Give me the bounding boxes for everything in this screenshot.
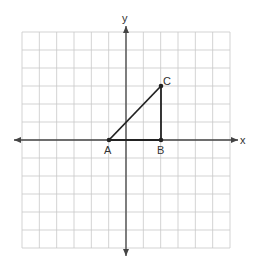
segment-ac (109, 86, 161, 140)
y-axis-up-arrow-icon (123, 26, 129, 33)
point-a-label: A (104, 144, 112, 156)
point-b-label: B (157, 144, 164, 156)
x-axis-label: x (240, 134, 246, 146)
point-c-label: C (163, 75, 171, 87)
point-a (107, 138, 112, 143)
x-axis-left-arrow-icon (14, 137, 21, 143)
triangle-abc: A B C (104, 75, 171, 156)
y-axis-down-arrow-icon (123, 249, 129, 256)
x-axis-right-arrow-icon (231, 137, 238, 143)
point-b (159, 138, 164, 143)
y-axis: y (122, 12, 129, 256)
y-axis-label: y (122, 12, 128, 24)
coordinate-plane: x y A B C (0, 0, 262, 265)
